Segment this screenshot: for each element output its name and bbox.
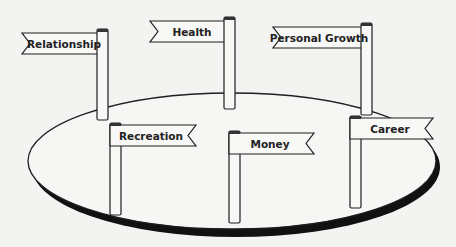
- pole: [224, 17, 235, 109]
- pole-cap-icon: [350, 116, 361, 119]
- pole-cap-icon: [229, 131, 240, 134]
- pole-cap-icon: [110, 123, 121, 126]
- pole-cap-icon: [97, 29, 108, 32]
- life-areas-diagram: Relationship Health Personal Growth Recr…: [0, 0, 456, 247]
- pole-cap-icon: [361, 23, 372, 26]
- signpost-label: Personal Growth: [270, 32, 368, 44]
- signpost-relationship: Relationship: [22, 29, 108, 120]
- signpost-label: Career: [370, 123, 410, 135]
- pole-cap-icon: [224, 17, 235, 20]
- signpost-label: Recreation: [119, 130, 183, 142]
- signpost-label: Relationship: [27, 38, 102, 50]
- signpost-label: Health: [172, 26, 211, 38]
- signpost-label: Money: [250, 138, 289, 150]
